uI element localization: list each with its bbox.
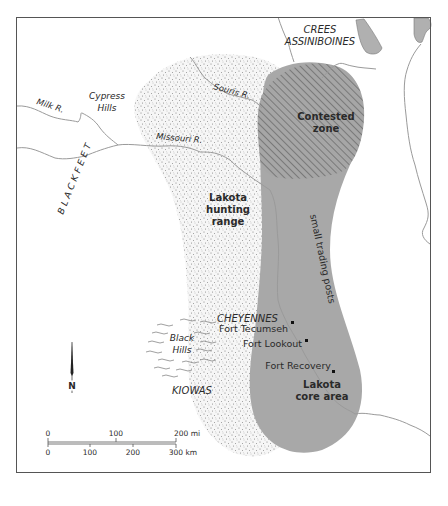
crees-label: CREES [304,24,338,35]
map-body: Contested zone Lakota hunting range smal… [17,17,431,457]
lake-1 [356,19,382,54]
lake-2 [414,18,431,43]
fort-recovery-label: Fort Recovery [265,360,331,371]
contested-label-1: Contested [297,111,355,122]
kiowas-label: KIOWAS [172,385,213,396]
fort-lookout-marker [305,339,308,342]
hunting-label-2: hunting [206,204,250,215]
contested-label-2: zone [313,123,340,134]
fort-lookout-label: Fort Lookout [243,338,302,349]
scale-km-300: 300 km [169,448,197,457]
fort-tecumseh-marker [291,321,294,324]
hunting-label-1: Lakota [209,192,247,203]
core-label-1: Lakota [303,379,341,390]
scale-km-200: 200 [126,448,141,457]
east-river-2 [404,44,430,244]
scale-mi-0: 0 [46,429,51,438]
black-hills-label-2: Hills [173,345,192,355]
black-hills-label-1: Black [170,333,195,343]
north-arrow-label: N [68,381,76,391]
map-canvas: Contested zone Lakota hunting range smal… [0,0,448,506]
hunting-label-3: range [212,216,245,227]
blackfeet-label: BLACKFEET [56,139,95,216]
fort-recovery-marker [332,370,335,373]
scale-mi-200: 200 mi [174,429,200,438]
north-arrow: N [68,342,76,393]
core-label-2: core area [295,391,348,402]
scale-km-0: 0 [46,448,51,457]
assiniboines-label: ASSINIBOINES [284,36,356,47]
scale-mi-100: 100 [109,429,124,438]
cypress-hills-label-2: Hills [98,103,117,113]
fort-tecumseh-label: Fort Tecumseh [219,323,288,334]
scale-km-100: 100 [83,448,98,457]
cypress-hills-label-1: Cypress [89,91,125,101]
scale-bar [48,438,176,448]
